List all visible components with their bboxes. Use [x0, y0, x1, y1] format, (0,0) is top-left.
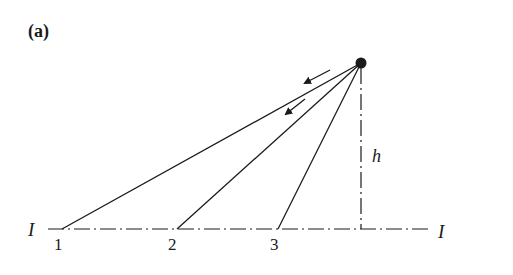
direction-arrow-icon: [286, 99, 305, 114]
height-label: h: [372, 146, 381, 166]
point-label-3: 3: [270, 235, 279, 254]
direction-arrow-icon: [305, 70, 330, 83]
panel-label: (a): [28, 21, 49, 42]
point-label-2: 2: [168, 235, 177, 254]
axis-label-left: I: [27, 219, 36, 240]
ray-1: [62, 63, 361, 229]
source-point: [356, 58, 367, 69]
ray-2: [177, 63, 361, 229]
axis-label-right: I: [437, 221, 446, 242]
ray-3: [278, 63, 361, 229]
diagram-canvas: (a) h I I 1 2 3: [0, 0, 513, 275]
point-label-1: 1: [54, 235, 63, 254]
